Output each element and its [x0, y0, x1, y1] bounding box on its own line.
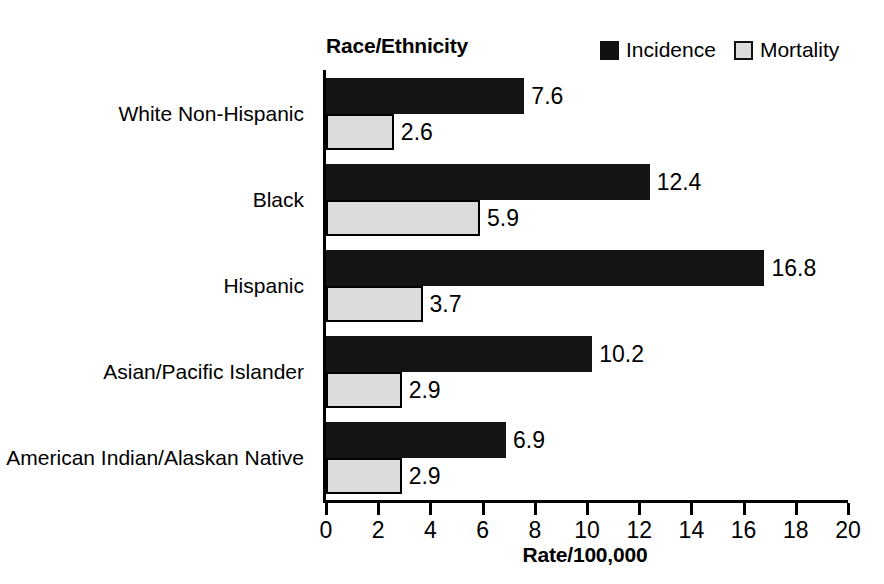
x-axis-tick — [638, 503, 641, 515]
x-axis-tick-label: 16 — [714, 517, 774, 544]
bar-value-label: 2.9 — [409, 465, 441, 488]
x-axis-tick — [743, 503, 746, 515]
category-label: Hispanic — [0, 275, 316, 296]
bar-mortality — [326, 286, 423, 322]
bar-value-label: 3.7 — [430, 293, 462, 316]
bar-value-label: 5.9 — [487, 207, 519, 230]
chart-legend: Incidence Mortality — [600, 38, 839, 62]
bar-value-label: 16.8 — [771, 257, 816, 280]
x-axis-tick-label: 2 — [348, 517, 408, 544]
category-label: Asian/Pacific Islander — [0, 361, 316, 382]
bar-incidence — [326, 78, 524, 114]
bar-incidence — [326, 422, 506, 458]
bar-value-label: 12.4 — [657, 171, 702, 194]
y-axis-title: Race/Ethnicity — [326, 34, 468, 58]
x-axis-tick-label: 20 — [818, 517, 878, 544]
x-axis-tick — [586, 503, 589, 515]
x-axis-title: Rate/100,000 — [0, 543, 884, 567]
legend-item-mortality: Mortality — [734, 38, 839, 62]
bar-value-label: 2.6 — [401, 121, 433, 144]
plot-area: 024681012141618207.62.6White Non-Hispani… — [326, 70, 848, 500]
bar-incidence — [326, 164, 650, 200]
bar-mortality — [326, 372, 402, 408]
bar-mortality — [326, 458, 402, 494]
x-axis-tick — [482, 503, 485, 515]
x-axis-tick — [847, 503, 850, 515]
bar-value-label: 7.6 — [531, 85, 563, 108]
x-axis-tick — [795, 503, 798, 515]
x-axis-tick — [377, 503, 380, 515]
bar-mortality — [326, 200, 480, 236]
x-axis-tick-label: 12 — [609, 517, 669, 544]
x-axis-tick-label: 6 — [453, 517, 513, 544]
legend-label-mortality: Mortality — [760, 38, 839, 62]
x-axis-tick-label: 0 — [296, 517, 356, 544]
category-label: White Non-Hispanic — [0, 103, 316, 124]
x-axis-tick-label: 10 — [557, 517, 617, 544]
bar-mortality — [326, 114, 394, 150]
bar-incidence — [326, 250, 764, 286]
x-axis-tick-label: 18 — [766, 517, 826, 544]
bar-incidence — [326, 336, 592, 372]
x-axis-tick — [325, 503, 328, 515]
category-label: American Indian/Alaskan Native — [0, 447, 316, 468]
x-axis-tick-label: 8 — [505, 517, 565, 544]
legend-item-incidence: Incidence — [600, 38, 716, 62]
x-axis-tick — [690, 503, 693, 515]
category-label: Black — [0, 189, 316, 210]
x-axis-tick — [429, 503, 432, 515]
mortality-swatch-icon — [734, 41, 753, 60]
bar-value-label: 10.2 — [599, 343, 644, 366]
incidence-swatch-icon — [600, 41, 619, 60]
bar-value-label: 2.9 — [409, 379, 441, 402]
bar-chart: Race/Ethnicity Incidence Mortality 02468… — [0, 0, 884, 584]
x-axis-tick — [534, 503, 537, 515]
x-axis-tick-label: 14 — [661, 517, 721, 544]
legend-label-incidence: Incidence — [626, 38, 716, 62]
bar-value-label: 6.9 — [513, 429, 545, 452]
x-axis-tick-label: 4 — [400, 517, 460, 544]
